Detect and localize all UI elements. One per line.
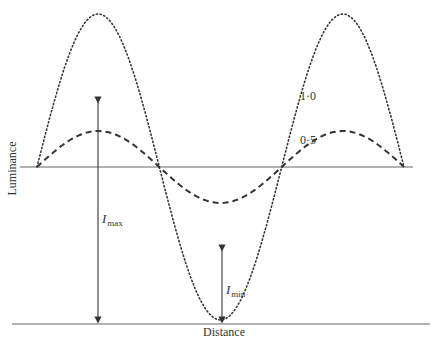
imax-symbol: I: [102, 211, 106, 226]
y-axis-label: Luminance: [5, 142, 20, 196]
imin-symbol: I: [226, 282, 230, 297]
imin-subscript: min: [231, 289, 245, 299]
imax-label: Imax: [102, 213, 123, 229]
x-axis-label: Distance: [203, 326, 245, 338]
curve-label-0-5: 0·5: [300, 134, 316, 146]
imin-label: Imin: [226, 284, 245, 300]
contrast-diagram: [0, 0, 437, 342]
imax-subscript: max: [107, 218, 123, 228]
curve-label-1-0: 1·0: [300, 90, 316, 102]
